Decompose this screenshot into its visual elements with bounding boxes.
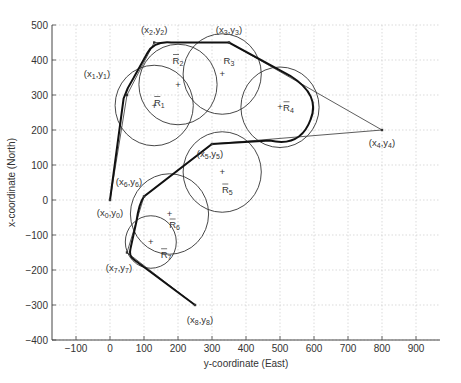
circle-label-r2: R2 — [173, 55, 184, 67]
y-tick-label: 400 — [31, 55, 48, 66]
center-marker: + — [175, 79, 181, 90]
x-tick-label: 400 — [238, 343, 255, 354]
waypoint-label-5: (x5,y5) — [197, 148, 223, 160]
x-axis-label: y-coordinate (East) — [204, 358, 288, 369]
x-tick-label: 500 — [272, 343, 289, 354]
circle-label-r7: R7 — [161, 249, 172, 261]
waypoint-label-1: (x1,y1) — [84, 68, 110, 80]
x-tick-label: 600 — [306, 343, 323, 354]
center-marker: + — [167, 208, 173, 219]
x-tick-label: 200 — [170, 343, 187, 354]
y-tick-label: 0 — [42, 195, 48, 206]
y-tick-label: 200 — [31, 125, 48, 136]
center-marker: + — [219, 68, 225, 79]
waypoint-marker — [153, 41, 155, 43]
waypoint-marker — [126, 94, 128, 96]
x-tick-label: −100 — [65, 343, 88, 354]
waypoint-label-2: (x2,y2) — [141, 24, 167, 36]
y-tick-label: −300 — [25, 300, 48, 311]
center-marker: + — [219, 166, 225, 177]
waypoint-marker — [194, 304, 196, 306]
x-tick-label: 100 — [136, 343, 153, 354]
waypoint-marker — [126, 251, 128, 253]
x-tick-label: 300 — [204, 343, 221, 354]
waypoint-marker — [228, 41, 230, 43]
waypoint-marker — [109, 199, 111, 201]
waypoint-label-0: (x0,y0) — [97, 207, 123, 219]
center-marker: + — [148, 236, 154, 247]
annotations: (x0,y0)(x1,y1)(x2,y2)(x3,y3)(x4,y4)(x5,y… — [84, 24, 395, 327]
smoothed-path — [110, 42, 313, 305]
circle-label-r3: R3 — [224, 55, 235, 67]
waypoint-label-3: (x3,y3) — [216, 24, 242, 36]
y-axis-label: x-coordinate (North) — [6, 138, 17, 227]
y-tick-label: 100 — [31, 160, 48, 171]
x-tick-label: 0 — [107, 343, 113, 354]
waypoint-label-8: (x8,y8) — [187, 314, 213, 326]
waypoint-marker — [211, 143, 213, 145]
y-tick-label: −200 — [25, 265, 48, 276]
x-tick-label: 900 — [408, 343, 425, 354]
grid-lines — [52, 25, 440, 340]
circle-label-r4: R4 — [283, 102, 294, 114]
y-tick-label: −400 — [25, 335, 48, 346]
waypoint-label-4: (x4,y4) — [369, 137, 395, 149]
circle-label-r6: R6 — [169, 219, 180, 231]
circle-label-r5: R5 — [222, 184, 233, 196]
waypoint-marker — [143, 195, 145, 197]
x-tick-label: 700 — [340, 343, 357, 354]
y-tick-label: 500 — [31, 20, 48, 31]
circle-label-r1: R1 — [154, 97, 165, 109]
waypoint-label-7: (x7,y7) — [106, 262, 132, 274]
waypoint-marker — [381, 129, 383, 131]
y-tick-label: −100 — [25, 230, 48, 241]
circles: +++++++ — [115, 34, 319, 269]
x-tick-label: 800 — [374, 343, 391, 354]
waypoint-label-6: (x6,y6) — [116, 176, 142, 188]
chart: +++++++ −1000100200300400500600700800900… — [0, 0, 461, 383]
y-tick-label: 300 — [31, 90, 48, 101]
